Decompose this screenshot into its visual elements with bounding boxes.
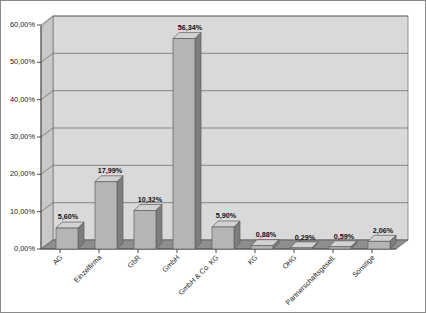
bar-value-label: 5,90%	[216, 211, 237, 220]
y-tick-label: 0,00%	[14, 244, 35, 253]
y-tick-label: 20,00%	[10, 169, 35, 178]
bar-partnerschaftsgesellschaft[interactable]: 0,59%	[329, 232, 357, 250]
bar-einzelfirma[interactable]: 17,99%	[95, 166, 123, 249]
y-tick-label: 30,00%	[10, 132, 35, 141]
chart-canvas: 0,00% 10,00% 20,00% 30,00% 40,00% 50,00%…	[0, 0, 426, 313]
bar-value-label: 10,32%	[138, 195, 163, 204]
bar-gbr[interactable]: 10,32%	[134, 195, 163, 250]
bar-sonstige[interactable]: 2,06%	[368, 226, 396, 249]
bar-value-label: 5,60%	[58, 212, 79, 221]
bar-value-label: 0,29%	[295, 233, 316, 242]
y-tick-label: 60,00%	[10, 20, 35, 29]
y-tick-label: 10,00%	[10, 207, 35, 216]
bar-ohg[interactable]: 0,29%	[290, 233, 318, 250]
y-tick-label: 50,00%	[10, 57, 35, 66]
bar-value-label: 2,06%	[373, 226, 394, 235]
y-tick-label: 40,00%	[10, 95, 35, 104]
bar-chart: 0,00% 10,00% 20,00% 30,00% 40,00% 50,00%…	[0, 0, 426, 313]
bar-value-label: 0,59%	[334, 232, 355, 241]
bar-value-label: 56,34%	[178, 23, 203, 32]
bar-value-label: 17,99%	[98, 166, 123, 175]
bar-gmbh-co-kg[interactable]: 5,90%	[212, 211, 240, 249]
bar-value-label: 0,88%	[256, 230, 277, 239]
bar-gmbh[interactable]: 56,34%	[173, 23, 203, 249]
